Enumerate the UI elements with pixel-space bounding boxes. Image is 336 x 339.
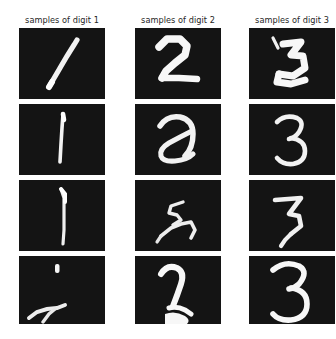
digit-1-sample-4 xyxy=(19,256,105,324)
digit-1-sample-2 xyxy=(19,104,105,175)
column-title-digit-2: samples of digit 2 xyxy=(141,15,215,25)
digit-1-sample-1 xyxy=(19,28,105,99)
column-title-digit-1: samples of digit 1 xyxy=(25,15,99,25)
digit-2-sample-3 xyxy=(135,180,221,251)
digit-3-sample-2 xyxy=(249,104,335,175)
digit-3-sample-3 xyxy=(249,180,335,251)
digit-3-sample-1 xyxy=(249,28,335,99)
digit-2-sample-1 xyxy=(135,28,221,99)
digit-1-sample-3 xyxy=(19,180,105,251)
digit-samples-figure: samples of digit 1 xyxy=(0,0,336,339)
column-title-digit-3: samples of digit 3 xyxy=(255,15,329,25)
digit-2-sample-4 xyxy=(135,256,221,324)
digit-3-sample-4 xyxy=(249,256,335,324)
digit-2-sample-2 xyxy=(135,104,221,175)
